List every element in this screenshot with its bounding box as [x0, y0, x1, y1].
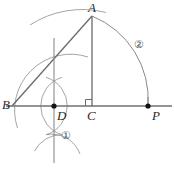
point-label-d: D: [57, 109, 66, 122]
right-angle-marker: [86, 100, 93, 107]
arc-two-a-to-p: [92, 16, 148, 106]
point-label-c: C: [87, 109, 96, 122]
point-label-b: B: [2, 98, 10, 111]
construction-arc-left-tail: [35, 135, 63, 152]
ray-ba: [12, 16, 92, 106]
geometry-canvas: [0, 0, 174, 170]
step-two-label: ②: [134, 39, 144, 50]
point-label-a: A: [88, 1, 96, 14]
geometry-figure: A B C D P ① ②: [0, 0, 174, 170]
point-d-dot: [51, 103, 56, 108]
point-label-p: P: [152, 109, 160, 122]
step-one-label: ①: [61, 130, 71, 141]
point-p-dot: [145, 103, 150, 108]
